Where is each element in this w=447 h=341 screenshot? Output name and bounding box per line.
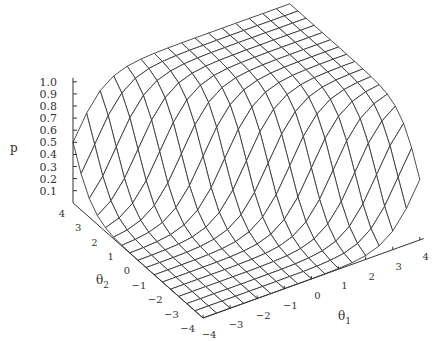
- y-tick-label: 4: [59, 208, 65, 219]
- z-tick-label: 0.7: [40, 112, 58, 125]
- z-tick-label: 0.6: [40, 124, 58, 137]
- x-tick-label: −3: [229, 319, 244, 330]
- z-tick-label: 1.0: [40, 76, 58, 89]
- y-tick-label: 1: [107, 251, 113, 262]
- y-axis-label: θ2: [96, 273, 109, 290]
- x-tick-label: 4: [423, 251, 429, 262]
- y-tick-label: −1: [132, 280, 147, 291]
- z-tick-label: 0.9: [40, 88, 58, 101]
- y-tick-label: −2: [148, 294, 163, 305]
- x-tick-label: 2: [368, 271, 374, 282]
- x-axis-label: θ1: [338, 309, 351, 326]
- z-tick-label: 0.3: [40, 161, 58, 174]
- y-tick-label: 2: [91, 237, 97, 248]
- y-tick-label: 0: [124, 265, 130, 276]
- z-tick-label: 0.8: [40, 100, 58, 113]
- x-tick-label: 1: [341, 280, 347, 291]
- x-tick-label: 3: [396, 261, 402, 272]
- y-tick-label: 3: [75, 222, 81, 233]
- z-tick-label: 0.2: [40, 173, 58, 186]
- surface-plot: 0.10.20.30.40.50.60.70.80.91.0−4−3−2−101…: [0, 0, 447, 341]
- x-tick-label: 0: [314, 290, 320, 301]
- z-tick-label: 0.1: [40, 185, 58, 198]
- z-tick-label: 0.4: [40, 148, 58, 161]
- y-tick-label: −3: [164, 309, 179, 320]
- x-tick-label: −2: [256, 310, 271, 321]
- x-tick-label: −1: [283, 300, 298, 311]
- x-tick-label: −4: [202, 329, 217, 340]
- z-tick-label: 0.5: [40, 136, 58, 149]
- z-axis-label: p: [10, 141, 18, 155]
- y-tick-label: −4: [180, 323, 195, 334]
